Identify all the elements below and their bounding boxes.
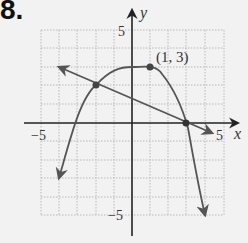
- x-axis-label: x: [233, 125, 241, 142]
- intersection-point-left: [93, 82, 100, 89]
- x-max-label: 5: [216, 128, 223, 143]
- graph: y x 5 −5 −5 5 (1, 3): [0, 0, 248, 243]
- point-1-3: [147, 64, 154, 71]
- x-min-label: −5: [31, 128, 46, 143]
- point-label: (1, 3): [156, 49, 189, 66]
- y-min-label: −5: [108, 208, 123, 223]
- y-max-label: 5: [118, 24, 125, 39]
- y-axis-label: y: [138, 4, 148, 22]
- intersection-point-right: [183, 120, 190, 127]
